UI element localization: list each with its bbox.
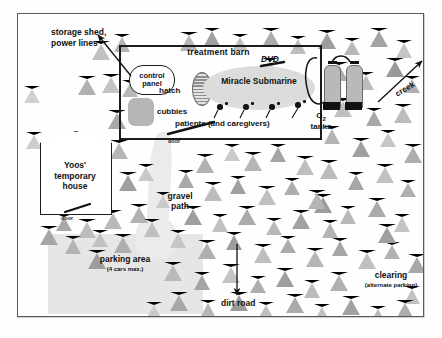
oxygen-hose-link xyxy=(332,56,350,62)
map-frame: treatment barn control panel cubbies hat… xyxy=(17,13,424,317)
patient-leader xyxy=(292,108,298,118)
page-bleed-through xyxy=(28,320,418,332)
annotation-overlay xyxy=(18,14,423,316)
patient-leader xyxy=(240,110,244,118)
storage-shed-arrow xyxy=(98,35,131,76)
patient-leader xyxy=(214,110,218,118)
creek-arrow xyxy=(378,61,422,102)
house-door-leader xyxy=(65,204,90,212)
barn-door-leader xyxy=(168,122,214,134)
oxygen-hose xyxy=(306,58,324,104)
patient-leader xyxy=(266,110,270,118)
site-map: treatment barn control panel cubbies hat… xyxy=(0,0,442,338)
dvd-leader xyxy=(261,62,284,66)
